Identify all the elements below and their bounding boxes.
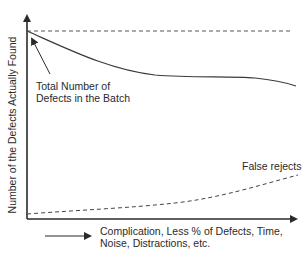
total-defects-label-line1: Total Number of [36, 80, 130, 92]
x-axis-label: Complication, Less % of Defects, Time, N… [100, 225, 283, 249]
chart-canvas [0, 0, 308, 256]
false-rejects-curve [27, 175, 298, 214]
x-axis-label-line1: Complication, Less % of Defects, Time, [100, 225, 283, 237]
x-axis-label-line2: Noise, Distractions, etc. [100, 237, 283, 249]
annotation-arrow [32, 39, 50, 74]
defects-found-curve [27, 31, 296, 86]
total-defects-label-line2: Defects in the Batch [36, 92, 130, 104]
false-rejects-label: False rejects [242, 160, 302, 172]
y-axis-label: Number of the Defects Actually Found [6, 37, 18, 214]
total-defects-label: Total Number of Defects in the Batch [36, 80, 130, 104]
